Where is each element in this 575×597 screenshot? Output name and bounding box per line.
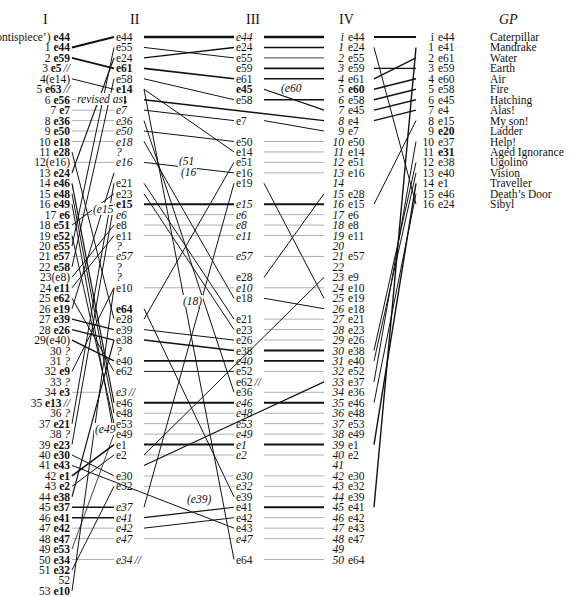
list-item: e64 — [236, 554, 253, 566]
connector-line — [72, 225, 114, 277]
connector-line — [144, 507, 234, 517]
list-item: e19 — [236, 177, 253, 189]
connector-line — [374, 110, 416, 120]
list-item: e58 — [236, 94, 253, 106]
list-item: e47 — [236, 533, 253, 545]
entry-code: e2 — [236, 449, 247, 461]
connector-line — [72, 288, 114, 591]
annotation-note: revised as — [76, 93, 124, 105]
entry-number: 37 — [39, 418, 51, 430]
connector-line — [72, 58, 114, 68]
entry-number: 5 — [36, 83, 42, 95]
entry-code: e58 — [236, 94, 253, 106]
connector-line — [72, 204, 114, 434]
connector-line — [72, 58, 114, 173]
column-header-iv: IV — [339, 12, 354, 28]
list-item: e32 — [116, 480, 133, 492]
list-item: e10 — [116, 282, 133, 294]
list-item: 16e24 — [418, 198, 455, 210]
connector-line — [72, 183, 114, 402]
connector-line — [72, 455, 114, 486]
annotation-note: (e15 — [92, 203, 114, 215]
connector-line — [144, 277, 324, 455]
list-item: e2 — [116, 449, 127, 461]
connector-line — [374, 142, 416, 382]
connector-line — [72, 183, 114, 423]
connector-line — [72, 79, 114, 89]
connector-line — [72, 340, 114, 361]
entry-code: e62 — [116, 365, 133, 377]
connector-line — [144, 100, 324, 121]
list-item: e2 — [236, 449, 247, 461]
connector-line — [72, 288, 114, 372]
entry-code: e11 — [236, 230, 252, 242]
connector-line — [72, 194, 114, 413]
connector-line — [72, 236, 114, 288]
connector-line — [144, 183, 234, 507]
list-item: e7 — [236, 115, 247, 127]
connector-line — [144, 47, 234, 57]
gp-title: Sibyl — [490, 198, 514, 210]
entry-code: e16 — [348, 167, 365, 179]
connector-line — [374, 194, 416, 403]
entry-number: 53 — [39, 585, 51, 597]
entry-number: 51 — [39, 564, 51, 576]
list-item: e11 — [236, 230, 252, 242]
column-header-iii: III — [246, 12, 260, 28]
connector-line — [374, 162, 416, 350]
entry-number: i (‘Frontispiece’) — [0, 31, 51, 43]
list-item: e62 — [116, 365, 133, 377]
connector-line — [72, 455, 114, 476]
entry-code: e19 — [236, 177, 253, 189]
connector-line — [264, 194, 324, 278]
connector-line — [264, 121, 324, 131]
entry-code: e47 — [236, 533, 253, 545]
entry-code: e11 — [348, 230, 364, 242]
entry-code: e2 — [348, 449, 359, 461]
connector-line — [144, 68, 234, 78]
connector-line — [72, 319, 114, 329]
connector-line — [144, 131, 234, 141]
connector-line — [72, 236, 114, 424]
connector-line — [374, 173, 416, 361]
connector-line — [72, 79, 114, 267]
annotation-note: (e39) — [186, 493, 212, 505]
entry-code: e24 — [438, 198, 455, 210]
entry-code: e47 — [116, 533, 133, 545]
entry-code: e18 — [236, 292, 253, 304]
entry-code: e2 — [116, 449, 127, 461]
entry-number: 16 — [418, 198, 434, 210]
list-item: 50e64 — [326, 554, 365, 566]
list-item: e57 — [236, 250, 253, 262]
connector-line — [374, 79, 416, 89]
entry-number: 35 — [31, 397, 43, 409]
entry-code: e10 — [116, 282, 133, 294]
connector-line — [72, 330, 114, 340]
list-item: e18 — [236, 292, 253, 304]
entry-code: e64 — [348, 554, 365, 566]
connector-line — [144, 79, 234, 100]
connector-line — [144, 309, 234, 497]
entry-code: e34 — [116, 554, 133, 566]
entry-code: e64 — [236, 554, 253, 566]
list-item: e34// — [116, 554, 141, 566]
annotation-note: (16 — [180, 166, 197, 178]
annotation-note: (18) — [182, 295, 203, 307]
column-header-gp: GP — [499, 12, 518, 28]
connector-line — [72, 340, 114, 497]
connector-line — [72, 152, 114, 319]
annotation-note: (e60 — [280, 82, 302, 94]
connector-line — [72, 298, 114, 371]
list-item: 53 e10 — [39, 585, 70, 597]
connector-line — [144, 47, 234, 57]
connector-line — [72, 445, 114, 476]
connector-line — [72, 37, 114, 47]
entry-code: e16 — [116, 156, 133, 168]
connector-line — [72, 434, 114, 549]
connector-line — [144, 194, 234, 330]
connector-line — [144, 89, 234, 152]
connector-line — [374, 100, 416, 110]
connector-line — [144, 382, 324, 466]
list-item: e47 — [116, 533, 133, 545]
